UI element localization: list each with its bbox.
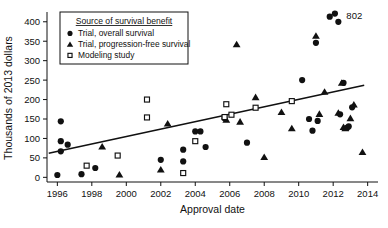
point-triangle — [278, 108, 286, 115]
point-circle — [315, 118, 321, 124]
y-axis-title: Thousands of 2013 dollars — [2, 36, 14, 160]
x-tick-label: 1998 — [81, 188, 102, 199]
point-triangle — [98, 143, 106, 150]
y-tick-label: 50 — [29, 152, 40, 163]
point-circle — [92, 165, 98, 171]
point-triangle — [350, 101, 358, 108]
y-tick-label: 300 — [24, 55, 40, 66]
y-tick-label: 100 — [24, 133, 40, 144]
legend-entry-label: Trial, overall survival — [78, 28, 154, 38]
point-square — [253, 105, 258, 110]
point-circle — [65, 142, 71, 148]
point-circle — [54, 172, 60, 178]
point-triangle — [233, 41, 241, 48]
point-circle — [203, 144, 209, 150]
x-tick-label: 2012 — [323, 188, 344, 199]
point-circle — [299, 77, 305, 83]
point-square — [224, 102, 229, 107]
point-triangle — [347, 115, 355, 122]
point-circle — [180, 158, 186, 164]
series-open-square — [84, 97, 294, 176]
annotations: 802 — [346, 10, 362, 21]
point-square — [115, 153, 120, 158]
point-triangle — [315, 110, 323, 117]
point-circle — [332, 11, 338, 17]
x-tick-label: 2000 — [116, 188, 137, 199]
point-circle — [335, 19, 341, 25]
point-circle — [313, 40, 319, 46]
point-circle — [306, 116, 312, 122]
x-tick-label: 1996 — [47, 188, 68, 199]
y-tick-label: 400 — [24, 16, 40, 27]
point-circle — [327, 14, 333, 20]
point-triangle — [157, 166, 165, 173]
point-triangle — [260, 154, 268, 161]
point-circle — [67, 31, 72, 36]
y-tick-label: 200 — [24, 94, 40, 105]
y-tick-label: 250 — [24, 75, 40, 86]
y-tick-label: 350 — [24, 36, 40, 47]
point-triangle — [236, 118, 244, 125]
legend: Source of survival benefitTrial, overall… — [60, 12, 190, 64]
point-square — [144, 115, 149, 120]
legend-entry-label: Modeling study — [78, 50, 135, 60]
point-circle — [180, 147, 186, 153]
point-triangle — [288, 125, 296, 132]
point-square — [229, 112, 234, 117]
point-square — [222, 115, 227, 120]
point-circle — [244, 140, 250, 146]
point-triangle — [359, 148, 367, 155]
legend-title: Source of survival benefit — [76, 16, 173, 26]
point-square — [68, 53, 72, 57]
x-tick-label: 2002 — [150, 188, 171, 199]
x-tick-label: 2008 — [254, 188, 275, 199]
point-circle — [58, 138, 64, 144]
point-circle — [158, 157, 164, 163]
point-square — [289, 99, 294, 104]
x-axis-title: Approval date — [180, 203, 245, 215]
annotation-label: 802 — [346, 10, 362, 21]
x-tick-label: 2004 — [185, 188, 206, 199]
point-circle — [58, 148, 64, 154]
point-circle — [78, 171, 84, 177]
point-triangle — [312, 32, 320, 39]
point-circle — [58, 118, 64, 124]
point-triangle — [252, 94, 260, 101]
point-square — [193, 139, 198, 144]
point-circle — [197, 128, 203, 134]
y-tick-label: 0 — [35, 172, 40, 183]
point-square — [84, 163, 89, 168]
point-triangle — [116, 171, 124, 178]
x-tick-label: 2014 — [357, 188, 378, 199]
x-tick-label: 2010 — [288, 188, 309, 199]
point-square — [181, 171, 186, 176]
point-circle — [309, 128, 315, 134]
point-square — [144, 97, 149, 102]
plot-svg: 0501001502002503003504001996199820002002… — [0, 0, 388, 228]
scatter-chart: 0501001502002503003504001996199820002002… — [0, 0, 388, 228]
legend-entry-label: Trial, progression-free survival — [78, 39, 190, 49]
y-tick-label: 150 — [24, 113, 40, 124]
point-triangle — [164, 120, 172, 127]
point-triangle — [321, 88, 329, 95]
x-tick-label: 2006 — [219, 188, 240, 199]
